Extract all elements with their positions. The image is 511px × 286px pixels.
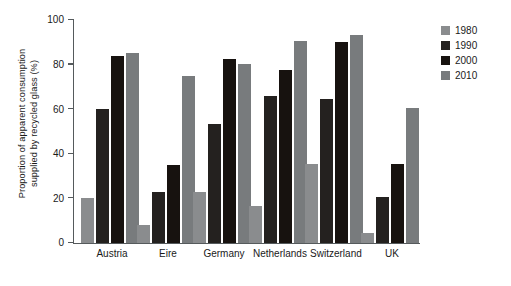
legend-swatch-icon: [441, 56, 450, 65]
y-tick-label: 60: [53, 103, 64, 114]
bar: [279, 70, 292, 243]
y-tick-label: 100: [47, 14, 64, 25]
legend-label: 1990: [455, 41, 477, 51]
legend-item[interactable]: 2000: [441, 54, 477, 67]
bar-group: [249, 20, 307, 243]
bar: [81, 198, 94, 243]
legend-item[interactable]: 2010: [441, 69, 477, 82]
bar: [208, 124, 221, 243]
y-tick: 20: [68, 197, 74, 198]
bar-chart: Proportion of apparent consumption suppl…: [0, 0, 511, 286]
legend-swatch-icon: [441, 71, 450, 80]
bar-group: [305, 20, 363, 243]
bar-group: [137, 20, 195, 243]
y-axis-title: Proportion of apparent consumption suppl…: [17, 4, 40, 244]
y-tick-label: 80: [53, 59, 64, 70]
legend-item[interactable]: 1990: [441, 39, 477, 52]
bar: [193, 192, 206, 243]
bar-group: [193, 20, 251, 243]
bar-group: [361, 20, 419, 243]
bar: [111, 56, 124, 243]
plot-area: 020406080100 AustriaEireGermanyNetherlan…: [74, 20, 419, 243]
bar-group: [81, 20, 139, 243]
y-tick: 100: [68, 19, 74, 20]
legend-label: 1980: [455, 26, 477, 36]
bar: [376, 197, 389, 243]
y-tick: 60: [68, 108, 74, 109]
y-tick-label: 0: [58, 237, 64, 248]
legend-label: 2010: [455, 71, 477, 81]
bar: [406, 108, 419, 243]
bar: [223, 59, 236, 243]
legend-swatch-icon: [441, 26, 450, 35]
bar: [320, 99, 333, 243]
legend-label: 2000: [455, 56, 477, 66]
bar: [152, 192, 165, 243]
bar: [167, 165, 180, 243]
legend: 1980199020002010: [441, 24, 477, 84]
bar: [249, 206, 262, 243]
bar: [137, 225, 150, 243]
bar: [361, 233, 374, 243]
y-tick: 80: [68, 63, 74, 64]
y-tick: 40: [68, 153, 74, 154]
y-axis-line: [73, 20, 74, 244]
bar: [391, 164, 404, 243]
legend-item[interactable]: 1980: [441, 24, 477, 37]
bar: [264, 96, 277, 243]
bar: [96, 109, 109, 243]
x-axis-label: UK: [343, 248, 441, 259]
bar: [335, 42, 348, 243]
legend-swatch-icon: [441, 41, 450, 50]
y-tick-label: 20: [53, 192, 64, 203]
bar: [305, 164, 318, 243]
y-tick-label: 40: [53, 148, 64, 159]
y-tick: 0: [68, 242, 74, 243]
